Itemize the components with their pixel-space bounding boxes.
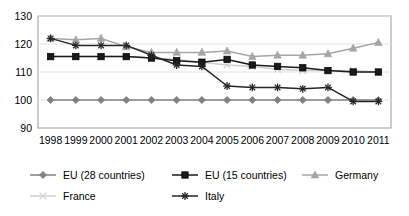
square-marker-icon <box>73 53 79 59</box>
legend-item-label: EU (28 countries) <box>63 169 145 181</box>
y-axis-tick-label: 120 <box>14 38 32 50</box>
legend-item-label: Germany <box>335 169 379 181</box>
square-marker-icon <box>224 56 230 62</box>
legend-item-france[interactable]: France <box>30 190 96 202</box>
diamond-marker-icon <box>39 171 46 178</box>
y-axis-tick-label: 90 <box>20 122 32 134</box>
y-axis-tick-label: 130 <box>14 10 32 22</box>
square-marker-icon <box>47 53 53 59</box>
x-axis-tick-label: 2006 <box>241 134 265 146</box>
x-axis-tick-label: 2005 <box>215 134 239 146</box>
legend-item-eu-28-countries[interactable]: EU (28 countries) <box>30 169 145 181</box>
x-axis-tick-label: 2002 <box>140 134 164 146</box>
square-marker-icon <box>325 67 331 73</box>
x-axis-tick-label: 2001 <box>115 134 139 146</box>
square-marker-icon <box>350 69 356 75</box>
y-axis-tick-label: 110 <box>15 66 32 78</box>
square-marker-icon <box>123 53 129 59</box>
x-axis-tick-label: 1999 <box>64 134 88 146</box>
x-axis-tick-label: 1998 <box>39 134 63 146</box>
legend-item-label: EU (15 countries) <box>205 169 287 181</box>
legend-item-italy[interactable]: Italy <box>172 190 225 202</box>
x-axis-tick-label: 2011 <box>367 134 390 146</box>
square-marker-icon <box>375 69 381 75</box>
square-marker-icon <box>249 62 255 68</box>
line-chart-figure: 9010011012013019981999200020012002200320… <box>0 0 409 216</box>
legend-item-label: France <box>63 190 96 202</box>
x-axis-tick-label: 2000 <box>89 134 113 146</box>
square-marker-icon <box>182 172 188 178</box>
y-axis-tick-label: 100 <box>14 94 32 106</box>
chart-canvas: 9010011012013019981999200020012002200320… <box>0 0 409 216</box>
legend-item-germany[interactable]: Germany <box>302 169 379 181</box>
square-marker-icon <box>300 65 306 71</box>
legend-item-eu-15-countries[interactable]: EU (15 countries) <box>172 169 287 181</box>
x-axis-tick-label: 2009 <box>316 134 340 146</box>
x-axis-tick-label: 2003 <box>165 134 189 146</box>
square-marker-icon <box>98 53 104 59</box>
square-marker-icon <box>274 63 280 69</box>
x-axis-tick-label: 2004 <box>190 134 214 146</box>
x-axis-tick-label: 2007 <box>266 134 290 146</box>
legend-item-label: Italy <box>205 190 225 202</box>
x-axis-tick-label: 2010 <box>341 134 365 146</box>
x-axis-tick-label: 2008 <box>291 134 315 146</box>
